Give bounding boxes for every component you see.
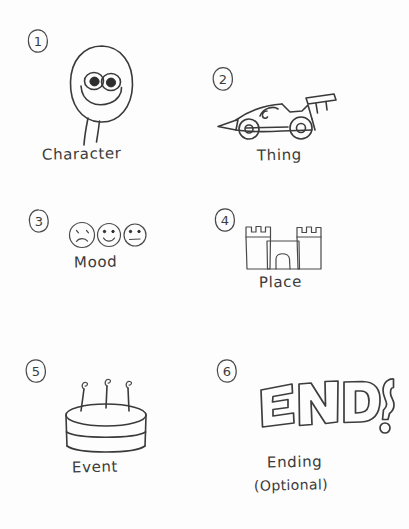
birthday-cake-icon (58, 370, 156, 456)
item-number-1-text: 1 (26, 28, 50, 54)
item-number-6-text: 6 (215, 358, 239, 384)
mood-face-happy (98, 224, 121, 247)
mood-face-neutral (124, 224, 146, 246)
item-number-6: 6 (215, 358, 239, 384)
mood-face-sad (70, 223, 95, 248)
item-number-3: 3 (27, 208, 51, 234)
item-label-character: Character (42, 144, 122, 164)
end-question-icon (256, 378, 396, 436)
item-number-5-text: 5 (24, 358, 48, 384)
race-car-icon (216, 86, 336, 142)
item-number-5: 5 (24, 358, 48, 384)
worksheet-page: 1 Character (0, 0, 409, 529)
item-label-mood: Mood (74, 253, 118, 272)
blob-character-icon (58, 42, 146, 150)
item-number-3-text: 3 (27, 208, 51, 234)
item-sublabel-ending: (Optional) (254, 476, 328, 494)
mood-faces-icon (68, 218, 150, 252)
item-label-event: Event (72, 458, 118, 477)
item-label-thing: Thing (257, 146, 302, 165)
castle-icon (242, 219, 326, 273)
item-number-4-text: 4 (213, 207, 237, 233)
item-label-place: Place (259, 273, 302, 292)
item-number-4: 4 (213, 207, 237, 233)
item-number-1: 1 (26, 28, 50, 54)
item-label-ending: Ending (267, 452, 323, 471)
